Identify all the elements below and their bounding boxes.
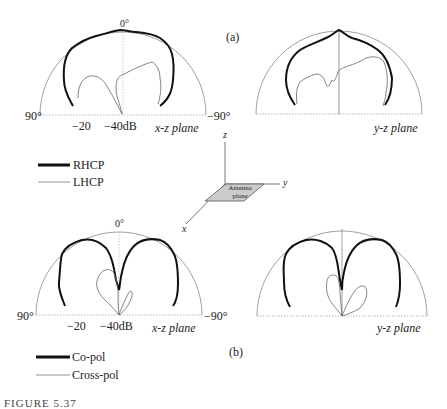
right-90-label-b: −90°	[204, 310, 228, 322]
rhcp-curve	[64, 30, 174, 106]
plot-b-yz	[257, 229, 427, 316]
r40-label-b: −40dB	[100, 320, 133, 332]
right-90-label: −90°	[207, 110, 231, 122]
yz-plane-label: y-z plane	[374, 122, 418, 134]
legend-copol: Co-pol	[72, 351, 105, 363]
yz-plane-label-b: y-z plane	[377, 322, 421, 334]
coordinate-diagram	[186, 142, 280, 224]
lhcp-curve	[78, 62, 161, 114]
zero-deg-label: 0°	[120, 19, 129, 29]
legend-b-lines	[36, 357, 70, 375]
xz-plane-label: x-z plane	[155, 122, 199, 134]
figure-caption: FIGURE 5.37	[4, 398, 77, 409]
crosspol-curve	[327, 275, 367, 316]
antenna-plane-label: Antenna plane	[220, 185, 260, 200]
x-axis-label: x	[182, 224, 186, 234]
panel-a-label: (a)	[226, 31, 239, 43]
xz-plane-label-b: x-z plane	[152, 322, 196, 334]
plot-a-xz	[40, 30, 206, 115]
legend-a-lines	[38, 165, 70, 182]
z-axis-label: z	[223, 130, 227, 140]
left-90-label-b: 90°	[17, 310, 34, 322]
r20-label: −20	[72, 120, 91, 132]
lhcp-curve	[296, 57, 387, 106]
plot-a-yz	[256, 30, 422, 114]
legend-lhcp: LHCP	[73, 176, 104, 188]
r20-label-b: −20	[67, 320, 86, 332]
legend-rhcp: RHCP	[73, 159, 104, 171]
zero-deg-label-b: 0°	[115, 219, 124, 229]
r40-label: −40dB	[104, 120, 137, 132]
plot-b-xz	[36, 232, 202, 315]
antenna-plane-label-2: plane	[220, 193, 260, 201]
y-axis-label: y	[283, 178, 287, 188]
legend-crosspol: Cross-pol	[72, 369, 119, 381]
left-90-label: 90°	[25, 110, 42, 122]
panel-b-label: (b)	[229, 346, 243, 358]
